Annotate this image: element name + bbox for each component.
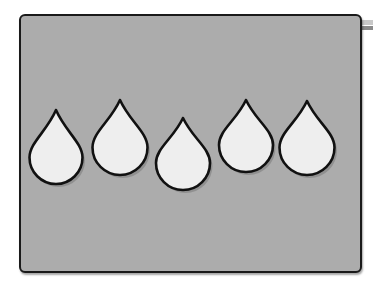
water-drop-icon	[156, 118, 213, 193]
drop-shape	[156, 118, 210, 190]
drop-shape	[219, 100, 273, 172]
drop-shape	[280, 101, 335, 175]
drop-shape	[30, 110, 83, 184]
water-drop-icon	[280, 101, 338, 178]
water-drop-icon	[93, 100, 151, 178]
water-drop-icon	[219, 100, 276, 175]
drop-shape	[93, 100, 148, 175]
water-drop-icon	[30, 110, 86, 187]
drops-layer	[0, 0, 373, 287]
